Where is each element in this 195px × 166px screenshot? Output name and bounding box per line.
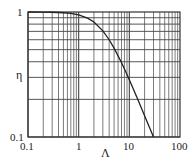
grid-lines <box>28 12 180 137</box>
x-tick-0.1: 0.1 <box>20 141 34 152</box>
x-tick-10: 10 <box>123 141 134 152</box>
plot-frame <box>28 12 180 137</box>
x-tick-100: 100 <box>171 141 188 152</box>
data-curve <box>28 12 154 137</box>
x-axis-label: Λ <box>101 147 110 159</box>
y-tick-1: 1 <box>17 7 23 18</box>
x-tick-1: 1 <box>76 141 82 152</box>
y-axis-label: η <box>16 69 22 81</box>
